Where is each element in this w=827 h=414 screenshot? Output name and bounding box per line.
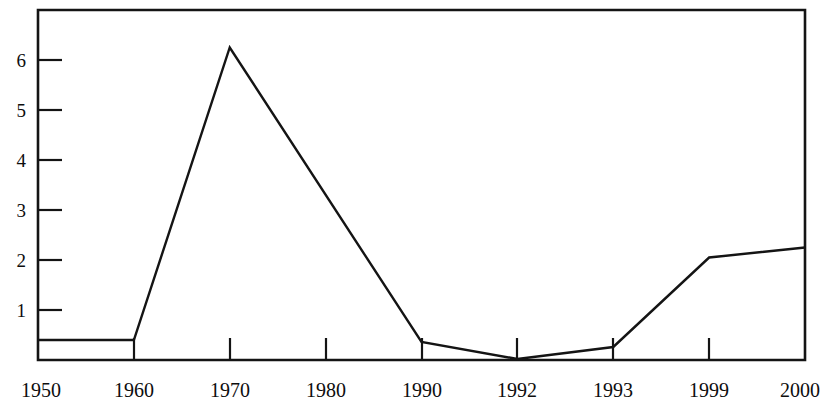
y-tick-label-1: 1	[17, 300, 27, 321]
data-line-series	[38, 48, 805, 360]
y-tick-label-2: 2	[17, 250, 27, 271]
x-tick-label-1999: 1999	[689, 379, 729, 401]
x-tick-label-1990: 1990	[402, 379, 442, 401]
x-tick-label-1992: 1992	[497, 379, 537, 401]
y-axis-tick-labels: 6 5 4 3 2 1	[17, 50, 27, 321]
x-tick-label-2000: 2000	[780, 379, 820, 401]
x-tick-label-1960: 1960	[114, 379, 154, 401]
y-tick-label-5: 5	[17, 100, 27, 121]
x-tick-label-1993: 1993	[593, 379, 633, 401]
y-tick-label-4: 4	[17, 150, 27, 171]
x-tick-label-1970: 1970	[210, 379, 250, 401]
plot-frame	[38, 10, 805, 360]
y-axis-ticks	[38, 60, 62, 310]
chart-page: 6 5 4 3 2 1 1950 1960 1970 1980 1990 199…	[0, 0, 827, 414]
line-chart: 6 5 4 3 2 1 1950 1960 1970 1980 1990 199…	[0, 0, 827, 414]
x-axis-tick-labels: 1950 1960 1970 1980 1990 1992 1993 1999 …	[21, 379, 820, 401]
x-tick-label-1950: 1950	[21, 379, 61, 401]
y-tick-label-3: 3	[17, 200, 27, 221]
x-tick-label-1980: 1980	[306, 379, 346, 401]
y-tick-label-6: 6	[17, 50, 27, 71]
